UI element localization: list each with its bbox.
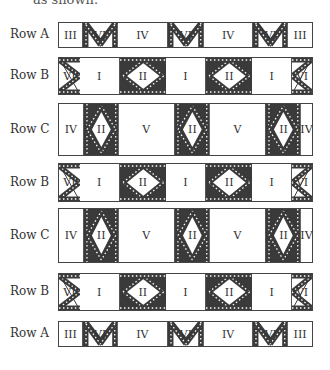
block-label: I <box>183 70 187 83</box>
block-label: VI <box>296 70 308 83</box>
block-label: I <box>183 176 187 189</box>
block-label: V <box>142 229 150 242</box>
row-label: Row B <box>10 68 49 82</box>
block-label: VI <box>63 176 75 189</box>
row-label: Row C <box>10 228 50 242</box>
block-ii: II <box>206 274 253 310</box>
block-ii: II <box>266 104 301 155</box>
block-vi: VI <box>83 322 118 346</box>
block-ii: II <box>120 58 167 94</box>
block-i: I <box>252 274 292 310</box>
block-i: I <box>166 58 206 94</box>
block-vi: VI <box>292 164 312 201</box>
block-label: VI <box>94 29 106 42</box>
block-iv: IV <box>301 209 312 262</box>
block-label: III <box>64 29 77 42</box>
block-i: I <box>166 164 206 201</box>
block-label: II <box>138 176 147 189</box>
quilt-row-a: III VIIV VIIV <box>58 22 313 48</box>
block-label: II <box>279 123 288 136</box>
block-vi: VI <box>253 23 288 47</box>
block-i: I <box>80 274 120 310</box>
row-label: Row B <box>10 284 49 298</box>
block-label: II <box>138 70 147 83</box>
block-label: IV <box>300 123 312 136</box>
block-label: III <box>294 328 307 341</box>
block-iv: IV <box>118 23 169 47</box>
block-ii: II <box>206 58 253 94</box>
block-vi: VI <box>59 274 80 310</box>
block-label: II <box>138 286 147 299</box>
block-label: III <box>64 328 77 341</box>
block-label: I <box>97 70 101 83</box>
block-label: IV <box>300 229 312 242</box>
block-vi: VI <box>168 23 204 47</box>
block-label: V <box>142 123 150 136</box>
block-vi: VI <box>168 322 204 346</box>
block-label: II <box>279 229 288 242</box>
block-v: V <box>210 209 267 262</box>
block-iii: III <box>288 23 312 47</box>
block-label: VI <box>296 176 308 189</box>
block-label: IV <box>136 328 148 341</box>
block-i: I <box>80 58 120 94</box>
quilt-row-b: VII III <box>58 273 313 311</box>
block-i: I <box>252 58 292 94</box>
block-label: I <box>183 286 187 299</box>
block-iii: III <box>59 23 83 47</box>
block-label: IV <box>136 29 148 42</box>
block-label: V <box>234 229 242 242</box>
block-label: V <box>234 123 242 136</box>
row-label: Row C <box>10 122 50 136</box>
block-vi: VI <box>59 58 80 94</box>
block-iii: III <box>59 322 83 346</box>
block-label: II <box>97 229 106 242</box>
block-label: VI <box>265 29 277 42</box>
block-label: I <box>270 176 274 189</box>
block-iv: IV <box>59 209 84 262</box>
block-label: I <box>270 70 274 83</box>
block-label: VI <box>180 29 192 42</box>
block-ii: II <box>266 209 301 262</box>
block-i: I <box>166 274 206 310</box>
block-iii: III <box>288 322 312 346</box>
block-label: II <box>225 70 234 83</box>
block-v: V <box>210 104 267 155</box>
block-label: VI <box>63 70 75 83</box>
block-label: II <box>188 123 197 136</box>
block-label: IV <box>65 123 77 136</box>
row-label: Row B <box>10 175 49 189</box>
block-label: III <box>294 29 307 42</box>
block-vi: VI <box>292 274 312 310</box>
block-label: VI <box>265 328 277 341</box>
row-label: Row A <box>10 326 49 340</box>
block-v: V <box>119 209 176 262</box>
block-ii: II <box>84 209 119 262</box>
block-label: VI <box>94 328 106 341</box>
block-label: I <box>97 286 101 299</box>
block-ii: II <box>175 104 210 155</box>
quilt-row-a: III VIIV VIIV <box>58 321 313 347</box>
block-label: II <box>225 286 234 299</box>
block-iv: IV <box>204 322 254 346</box>
block-vi: VI <box>59 164 80 201</box>
block-label: II <box>188 229 197 242</box>
block-iv: IV <box>59 104 84 155</box>
block-ii: II <box>120 164 167 201</box>
block-ii: II <box>175 209 210 262</box>
block-label: IV <box>222 29 234 42</box>
block-iv: IV <box>301 104 312 155</box>
block-vi: VI <box>292 58 312 94</box>
row-label: Row A <box>10 27 49 41</box>
block-i: I <box>80 164 120 201</box>
block-label: I <box>270 286 274 299</box>
block-ii: II <box>206 164 253 201</box>
block-vi: VI <box>253 322 288 346</box>
block-label: II <box>97 123 106 136</box>
block-label: IV <box>222 328 234 341</box>
quilt-row-c: IV IIV IIV <box>58 103 313 156</box>
block-ii: II <box>84 104 119 155</box>
block-iv: IV <box>204 23 254 47</box>
quilt-row-b: VII III <box>58 57 313 95</box>
block-iv: IV <box>118 322 169 346</box>
